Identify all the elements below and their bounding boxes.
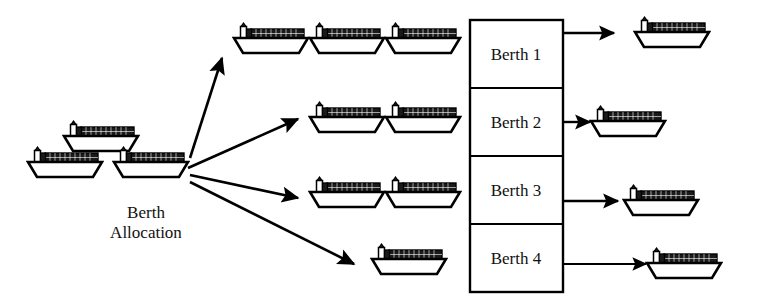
queue-ship-3-1 [310,177,384,207]
departure-ship-4 [647,248,721,278]
berth-row-4-label: Berth 4 [470,249,562,269]
berth-allocation-label: Berth Allocation [78,203,214,243]
queue-ship-1-2 [310,23,384,53]
queue-row-1 [234,23,460,53]
allocation-arrow-1 [190,58,222,158]
input-ship-3 [114,147,188,177]
queue-ship-2-1 [310,102,384,132]
berth-row-2-label: Berth 2 [470,113,562,133]
departure-ship-1 [635,17,709,47]
queue-ship-2-2 [386,102,460,132]
input-ship-group [28,121,188,177]
allocation-arrow-2 [188,119,298,168]
berth-allocation-label-line2: Allocation [78,223,214,243]
input-ship-1 [64,121,138,151]
departure-arrow-group [563,33,646,264]
berth-row-3-label: Berth 3 [470,181,562,201]
departure-ship-group [591,17,721,278]
diagram-canvas [0,0,759,308]
queue-ship-1-3 [386,23,460,53]
berth-allocation-diagram: Berth Allocation Berth 1 Berth 2 Berth 3… [0,0,759,308]
allocation-arrow-3 [190,175,298,198]
departure-ship-2 [591,106,665,136]
berth-allocation-label-line1: Berth [78,203,214,223]
queue-row-2 [310,102,460,132]
queue-row-4 [372,244,446,274]
queue-ship-1-1 [234,23,308,53]
queue-row-3 [310,177,460,207]
queue-ship-4-1 [372,244,446,274]
berth-row-1-label: Berth 1 [470,45,562,65]
departure-ship-3 [624,185,698,215]
queue-ship-3-2 [386,177,460,207]
